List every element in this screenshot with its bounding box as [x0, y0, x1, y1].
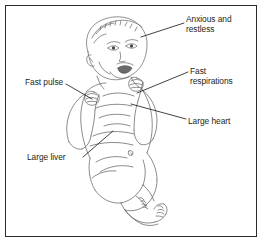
leader-fast-respirations: [137, 72, 188, 93]
infant-legs: [89, 153, 167, 226]
leader-anxious-restless: [141, 23, 184, 37]
leader-large-heart: [131, 104, 186, 119]
infant-right-arm: [129, 77, 157, 145]
label-large-liver: Large liver: [27, 152, 66, 162]
label-fast-respirations: Fast respirations: [190, 66, 233, 86]
leader-large-liver: [83, 131, 113, 157]
label-fast-pulse: Fast pulse: [25, 77, 63, 87]
label-anxious-and-restless: Anxious and restless: [186, 14, 232, 34]
infant-head: [86, 17, 147, 80]
label-large-heart: Large heart: [188, 116, 230, 126]
figure-container: Anxious and restless Fast respirations L…: [0, 0, 263, 243]
